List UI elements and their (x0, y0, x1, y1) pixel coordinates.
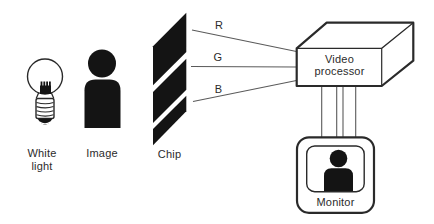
white-light-label-line2: light (31, 160, 52, 172)
chip-label: Chip (158, 148, 181, 161)
white-light-label-line1: White (27, 147, 56, 159)
monitor-cable-lines (322, 87, 356, 137)
blue-channel-label: B (215, 83, 223, 96)
video-processor-label-line1: Video (325, 53, 354, 65)
signal-line-r (192, 30, 297, 52)
rgb-signal-lines (191, 30, 297, 102)
green-channel-label: G (214, 51, 223, 64)
diagram-canvas: White light Image Chip R G B Video proce… (0, 0, 434, 224)
video-processor-label: Video processor (314, 53, 364, 78)
video-processor-label-line2: processor (314, 65, 364, 77)
person-icon (85, 50, 121, 129)
signal-line-b (193, 81, 297, 102)
chip-icon (153, 13, 186, 146)
monitor-label: Monitor (316, 196, 354, 209)
diagram-graphics (0, 0, 434, 224)
signal-line-g (191, 67, 297, 68)
image-label: Image (86, 147, 118, 160)
white-light-label: White light (27, 147, 56, 172)
red-channel-label: R (215, 19, 223, 32)
light-bulb-icon (28, 59, 63, 125)
